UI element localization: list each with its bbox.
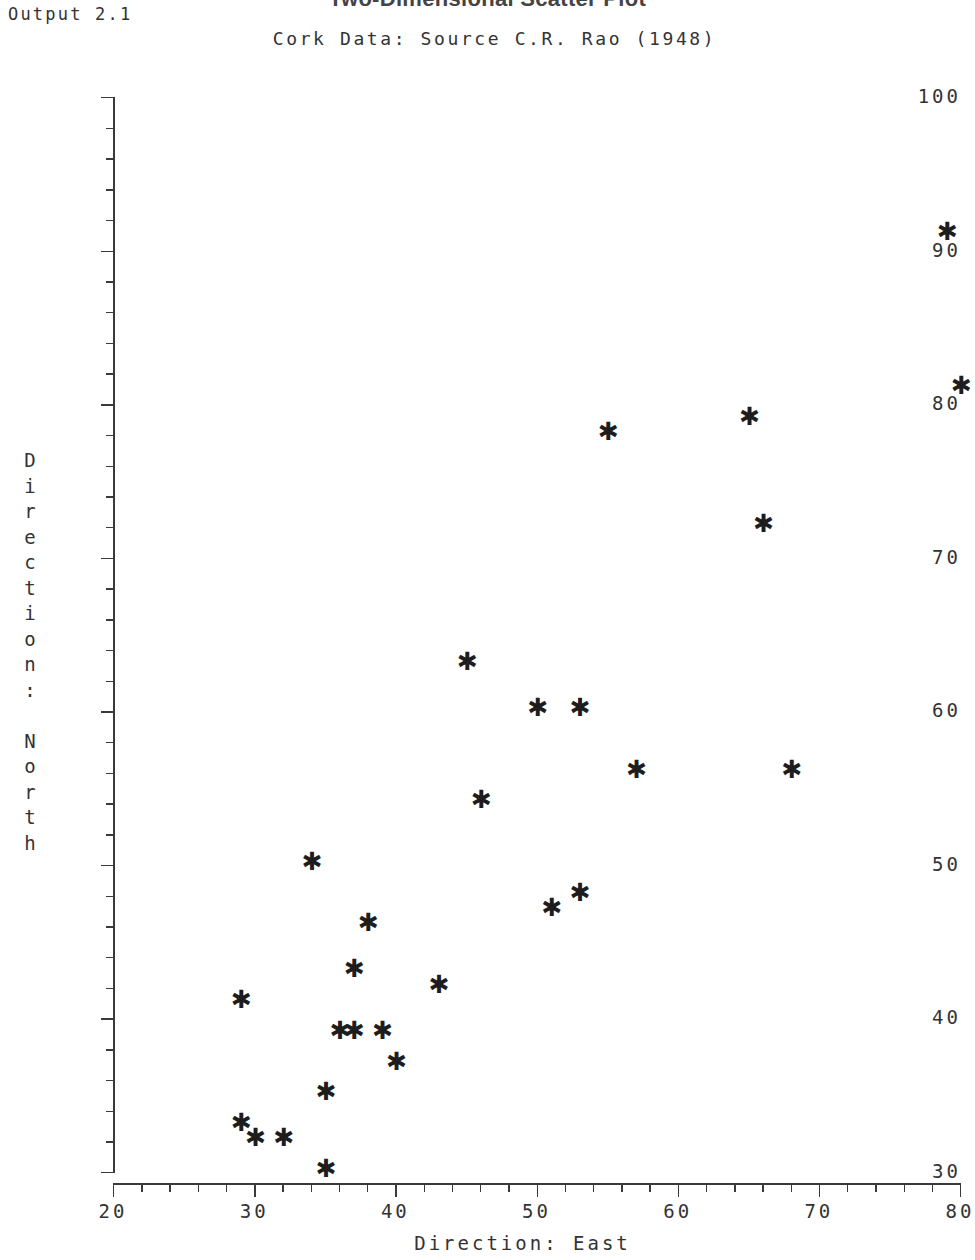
y-axis-title-char: o: [14, 754, 46, 780]
asterisk-marker-icon: ✱: [386, 1049, 404, 1074]
data-point: ✱: [325, 1172, 326, 1173]
asterisk-marker-icon: ✱: [782, 757, 800, 782]
y-axis-title: Direction: North: [14, 448, 46, 856]
y-axis-title-char: D: [14, 448, 46, 474]
x-tick-70: [819, 1184, 820, 1197]
data-point: ✱: [395, 1065, 396, 1066]
y-axis-title-char: o: [14, 627, 46, 653]
x-tick-54: [593, 1184, 594, 1192]
data-point: ✱: [353, 1034, 354, 1035]
data-point: ✱: [311, 865, 312, 866]
asterisk-marker-icon: ✱: [302, 849, 320, 874]
data-point: ✱: [325, 1095, 326, 1096]
x-tick-40: [395, 1184, 396, 1197]
x-tick-30: [254, 1184, 255, 1197]
y-axis-title-char: h: [14, 831, 46, 857]
asterisk-marker-icon: ✱: [372, 1018, 390, 1043]
page-title: Two-Dimensional Scatter Plot: [0, 0, 975, 12]
y-axis-title-char: t: [14, 805, 46, 831]
x-tick-66: [762, 1184, 763, 1192]
y-axis-title-char: t: [14, 576, 46, 602]
x-tick-62: [706, 1184, 707, 1192]
asterisk-marker-icon: ✱: [598, 419, 616, 444]
y-axis-title-char: n: [14, 652, 46, 678]
data-point: ✱: [579, 711, 580, 712]
data-point: ✱: [240, 1003, 241, 1004]
x-tick-60: [678, 1184, 679, 1197]
data-point: ✱: [353, 972, 354, 973]
asterisk-marker-icon: ✱: [316, 1079, 334, 1104]
asterisk-marker-icon: ✱: [570, 695, 588, 720]
chart-subtitle: Cork Data: Source C.R. Rao (1948): [0, 28, 975, 49]
y-axis-title-char: i: [14, 474, 46, 500]
x-tick-label-30: 30: [214, 1200, 294, 1222]
x-tick-50: [537, 1184, 538, 1197]
asterisk-marker-icon: ✱: [429, 972, 447, 997]
x-tick-label-70: 70: [779, 1200, 859, 1222]
asterisk-marker-icon: ✱: [457, 649, 475, 674]
x-tick-label-20: 20: [73, 1200, 153, 1222]
data-point: ✱: [960, 389, 961, 390]
x-tick-label-50: 50: [497, 1200, 577, 1222]
data-point: ✱: [791, 773, 792, 774]
asterisk-marker-icon: ✱: [316, 1156, 334, 1181]
x-tick-44: [452, 1184, 453, 1192]
data-point: ✱: [946, 235, 947, 236]
x-tick-22: [141, 1184, 142, 1192]
x-axis-title: Direction: East: [0, 1232, 975, 1254]
y-axis-title-char: r: [14, 499, 46, 525]
asterisk-marker-icon: ✱: [739, 404, 757, 429]
x-tick-20: [113, 1184, 114, 1197]
x-tick-label-60: 60: [638, 1200, 718, 1222]
x-tick-72: [847, 1184, 848, 1192]
data-point: ✱: [240, 1126, 241, 1127]
asterisk-marker-icon: ✱: [570, 880, 588, 905]
y-axis-title-char: c: [14, 550, 46, 576]
asterisk-marker-icon: ✱: [542, 895, 560, 920]
data-point: ✱: [537, 711, 538, 712]
y-axis-title-char: N: [14, 729, 46, 755]
x-tick-24: [169, 1184, 170, 1192]
x-tick-label-80: 80: [920, 1200, 975, 1222]
x-tick-36: [339, 1184, 340, 1192]
y-tick-30: [101, 1172, 114, 1173]
x-tick-32: [282, 1184, 283, 1192]
data-point: ✱: [480, 803, 481, 804]
data-point: ✱: [607, 435, 608, 436]
data-point: ✱: [579, 896, 580, 897]
x-tick-48: [508, 1184, 509, 1192]
asterisk-marker-icon: ✱: [951, 373, 969, 398]
data-point: ✱: [635, 773, 636, 774]
asterisk-marker-icon: ✱: [231, 987, 249, 1012]
asterisk-marker-icon: ✱: [358, 910, 376, 935]
data-point: ✱: [748, 420, 749, 421]
data-point: ✱: [282, 1141, 283, 1142]
data-point: ✱: [381, 1034, 382, 1035]
asterisk-marker-icon: ✱: [471, 787, 489, 812]
y-axis-title-char: e: [14, 525, 46, 551]
asterisk-marker-icon: ✱: [528, 695, 546, 720]
asterisk-marker-icon: ✱: [344, 1018, 362, 1043]
x-tick-38: [367, 1184, 368, 1192]
x-tick-56: [621, 1184, 622, 1192]
x-tick-68: [791, 1184, 792, 1192]
output-label: Output 2.1: [8, 4, 132, 24]
x-tick-34: [311, 1184, 312, 1192]
data-point: ✱: [466, 665, 467, 666]
x-tick-42: [424, 1184, 425, 1192]
x-tick-64: [734, 1184, 735, 1192]
x-tick-76: [904, 1184, 905, 1192]
asterisk-marker-icon: ✱: [626, 757, 644, 782]
y-axis-title-char: :: [14, 678, 46, 704]
x-tick-26: [198, 1184, 199, 1192]
y-axis-title-char: r: [14, 780, 46, 806]
x-tick-52: [565, 1184, 566, 1192]
x-tick-46: [480, 1184, 481, 1192]
data-point: ✱: [367, 926, 368, 927]
asterisk-marker-icon: ✱: [344, 956, 362, 981]
y-axis-title-char: [14, 703, 46, 729]
x-tick-74: [875, 1184, 876, 1192]
data-point: ✱: [339, 1034, 340, 1035]
x-tick-58: [649, 1184, 650, 1192]
data-point: ✱: [438, 988, 439, 989]
